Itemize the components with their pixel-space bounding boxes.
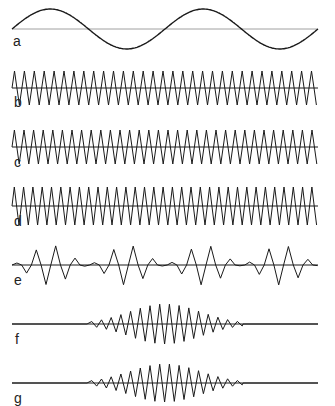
label-g: g bbox=[14, 391, 22, 405]
label-b: b bbox=[14, 95, 22, 109]
label-f: f bbox=[15, 332, 19, 346]
label-d: d bbox=[14, 214, 22, 228]
label-e: e bbox=[14, 273, 22, 287]
label-c: c bbox=[14, 155, 21, 169]
label-a: a bbox=[13, 34, 21, 48]
waveform-diagram bbox=[0, 0, 335, 406]
